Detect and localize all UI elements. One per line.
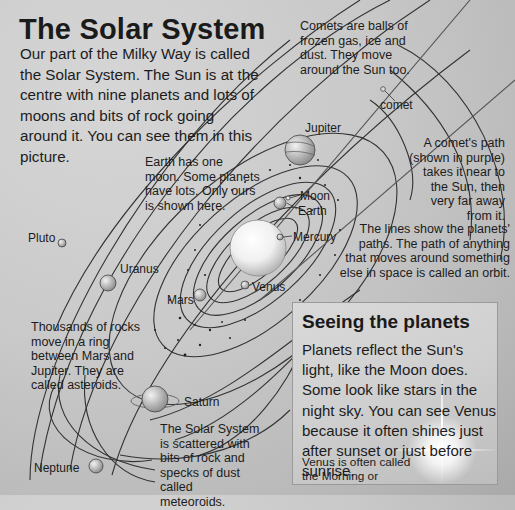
box-note: Venus is often called the Morning or Eve… [302, 455, 422, 485]
comet-icon [381, 87, 386, 92]
meteoroids-note: The Solar System is scattered with bits … [160, 422, 260, 510]
saturn-label: Saturn [184, 395, 219, 409]
mars-label: Mars [167, 293, 194, 307]
asteroids-note: Thousands of rocks move in a ring betwee… [31, 320, 156, 393]
mars-icon [194, 289, 206, 301]
comets-note: Comets are balls of frozen gas, ice and … [300, 19, 410, 77]
page-title: The Solar System [19, 12, 266, 47]
neptune-icon [89, 459, 103, 473]
earth-moon-note: Earth has one moon. Some planets have lo… [145, 155, 260, 213]
venus-icon [241, 281, 249, 289]
seeing-the-planets-box: Seeing the planets Planets reflect the S… [292, 302, 498, 485]
pluto-icon [58, 239, 66, 247]
sun-icon [230, 220, 286, 276]
moon-label: Moon [300, 189, 330, 203]
earth-label: Earth [298, 204, 327, 218]
jupiter-icon [285, 135, 315, 165]
comet-path-note: A comet's path (shown in purple) takes i… [405, 136, 505, 224]
uranus-icon [100, 275, 116, 291]
moon-icon [286, 196, 290, 200]
uranus-label: Uranus [120, 262, 159, 276]
earth-icon [274, 197, 286, 209]
mercury-icon [277, 234, 283, 240]
box-title: Seeing the planets [302, 311, 470, 333]
neptune-label: Neptune [34, 461, 79, 475]
orbits-note: The lines show the planets' paths. The p… [335, 222, 510, 280]
mercury-label: Mercury [293, 230, 336, 244]
jupiter-label: Jupiter [305, 121, 341, 135]
intro-text: Our part of the Milky Way is called the … [20, 44, 265, 167]
venus-label: Venus [252, 280, 285, 294]
pluto-label: Pluto [28, 231, 55, 245]
comet-label: comet [380, 98, 413, 112]
